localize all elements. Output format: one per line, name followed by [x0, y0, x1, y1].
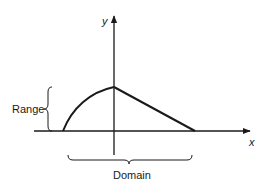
function-curve-line	[114, 87, 195, 131]
domain-label: Domain	[113, 169, 151, 181]
function-domain-range-diagram: y x Range Domain	[0, 0, 264, 190]
x-axis-label: x	[248, 136, 255, 148]
y-axis-label: y	[101, 15, 109, 27]
domain-brace	[68, 155, 192, 164]
range-label: Range	[12, 103, 44, 115]
function-curve-arc	[63, 87, 114, 131]
range-brace	[44, 87, 52, 131]
